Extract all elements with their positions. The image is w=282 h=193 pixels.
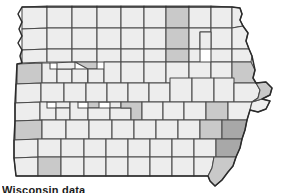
county-c-3-6[interactable] <box>144 49 166 62</box>
county-c-7-3[interactable] <box>66 120 89 139</box>
county-c-9-7[interactable] <box>150 157 172 176</box>
county-c-8-2[interactable] <box>38 139 61 157</box>
county-c-6-1[interactable] <box>15 102 40 121</box>
county-c-3-2[interactable] <box>47 49 72 62</box>
county-c-2-3[interactable] <box>72 28 97 49</box>
county-c-8-6[interactable] <box>128 139 150 157</box>
county-c-7-5[interactable] <box>112 120 134 139</box>
county-c-3-7[interactable] <box>166 49 189 62</box>
county-c-4-10[interactable] <box>144 62 166 83</box>
county-c-4-2[interactable] <box>42 63 57 83</box>
county-c-6-9[interactable] <box>110 108 131 120</box>
county-c-1-6[interactable] <box>144 6 166 28</box>
county-c-1-2[interactable] <box>47 6 72 28</box>
county-c-4-1[interactable] <box>17 63 42 84</box>
county-c-5-2[interactable] <box>41 83 64 102</box>
county-c-2-9[interactable] <box>211 28 232 49</box>
county-c-9-6[interactable] <box>128 157 150 176</box>
county-c-3-10[interactable] <box>211 49 232 62</box>
county-c-3-1[interactable] <box>22 49 47 63</box>
county-c-3-8[interactable] <box>189 49 200 62</box>
county-c-2-5[interactable] <box>121 28 144 49</box>
county-c-9-2[interactable] <box>38 157 61 176</box>
county-c-6-4[interactable] <box>56 108 70 120</box>
county-c-6-3[interactable] <box>47 102 70 108</box>
county-c-2-6[interactable] <box>144 28 166 49</box>
county-c-6-12[interactable] <box>163 102 184 120</box>
county-c-6-13[interactable] <box>184 102 206 120</box>
county-c-5-5[interactable] <box>107 83 128 102</box>
county-c-3-9[interactable] <box>200 32 211 49</box>
county-c-8-5[interactable] <box>106 139 128 157</box>
county-c-4-3[interactable] <box>57 69 72 83</box>
county-c-3-4[interactable] <box>97 49 121 62</box>
county-c-7-1[interactable] <box>15 120 42 140</box>
county-c-9-3[interactable] <box>61 157 84 176</box>
county-c-6-5[interactable] <box>70 102 88 120</box>
county-c-8-9[interactable] <box>194 139 216 157</box>
county-c-5-1[interactable] <box>16 83 41 103</box>
county-c-7-2[interactable] <box>42 120 66 139</box>
county-c-6-6[interactable] <box>78 102 99 108</box>
county-c-6-8[interactable] <box>99 102 121 108</box>
county-c-2-2[interactable] <box>47 28 72 49</box>
county-c-6-14[interactable] <box>206 102 228 120</box>
county-c-3-11[interactable] <box>232 49 252 62</box>
county-c-9-8[interactable] <box>172 157 194 176</box>
iowa-choropleth-figure: Wisconsin data <box>0 0 282 193</box>
county-c-1-3[interactable] <box>72 6 97 28</box>
county-c-8-10[interactable] <box>216 139 242 157</box>
county-c-5-8[interactable] <box>170 78 192 102</box>
county-c-8-1[interactable] <box>14 139 38 158</box>
county-c-1-8[interactable] <box>189 6 211 28</box>
county-c-4-4[interactable] <box>50 62 75 69</box>
county-c-7-6[interactable] <box>134 120 156 139</box>
figure-caption: Wisconsin data <box>2 185 85 193</box>
county-c-1-1[interactable] <box>22 6 47 29</box>
county-c-2-4[interactable] <box>97 28 121 49</box>
county-c-5-9[interactable] <box>192 78 214 102</box>
county-c-8-4[interactable] <box>84 139 106 157</box>
county-c-5-7[interactable] <box>149 83 170 102</box>
county-c-7-7[interactable] <box>156 120 178 139</box>
county-c-6-2[interactable] <box>40 102 56 120</box>
county-c-2-1[interactable] <box>22 28 47 50</box>
county-c-9-1[interactable] <box>14 157 38 176</box>
county-c-4-14[interactable] <box>232 62 256 83</box>
county-c-3-5[interactable] <box>121 49 144 62</box>
county-c-4-7[interactable] <box>88 69 104 83</box>
county-c-4-5[interactable] <box>72 69 88 83</box>
county-c-1-7[interactable] <box>166 6 189 28</box>
county-c-4-8[interactable] <box>104 62 121 83</box>
county-c-1-4[interactable] <box>97 6 121 28</box>
county-c-8-8[interactable] <box>172 139 194 157</box>
county-c-6-7[interactable] <box>88 108 110 120</box>
county-c-1-9[interactable] <box>211 6 232 28</box>
county-c-2-7[interactable] <box>166 28 189 49</box>
county-c-9-4[interactable] <box>84 157 106 176</box>
county-c-5-3[interactable] <box>64 83 86 102</box>
county-c-7-8[interactable] <box>178 120 200 139</box>
county-c-5-6[interactable] <box>128 83 149 102</box>
county-c-9-5[interactable] <box>106 157 128 176</box>
iowa-county-map[interactable] <box>0 0 282 193</box>
county-c-4-9[interactable] <box>121 62 144 83</box>
county-c-7-9[interactable] <box>200 120 222 139</box>
county-c-5-10[interactable] <box>214 78 234 102</box>
county-c-6-11[interactable] <box>142 102 163 120</box>
county-c-8-3[interactable] <box>61 139 84 157</box>
county-c-3-3[interactable] <box>72 49 97 62</box>
county-c-7-4[interactable] <box>89 120 112 139</box>
county-c-8-7[interactable] <box>150 139 172 157</box>
county-c-5-4[interactable] <box>86 83 107 102</box>
county-c-1-5[interactable] <box>121 6 144 28</box>
